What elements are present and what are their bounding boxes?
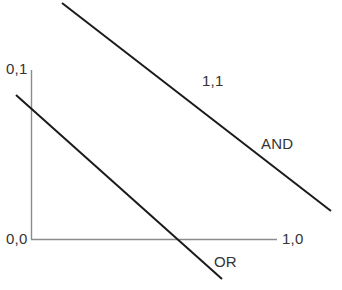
or-line-label: OR [214,254,237,269]
axes-group [31,70,277,240]
linear-separability-figure: 0,1 0,0 1,0 1,1 AND OR [0,0,342,290]
and-line-label: AND [261,136,293,151]
or-boundary-line [16,95,222,279]
axis-label-0-1: 0,1 [6,61,27,76]
axis-label-1-0: 1,0 [282,231,303,246]
axis-label-0-0: 0,0 [6,231,27,246]
and-boundary-line [62,3,331,211]
axis-label-1-1: 1,1 [202,73,223,88]
